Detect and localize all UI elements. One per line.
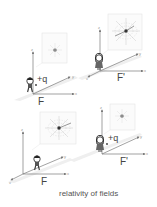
panel-bottom-left (8, 112, 76, 183)
charge-dot-icon (57, 126, 60, 129)
axis-letter-x: x (75, 92, 77, 96)
electric-field-lines-icon (115, 109, 129, 123)
electric-field-lines-icon (48, 43, 62, 57)
girl-observer-icon (95, 53, 103, 70)
axis-letter-v: v (86, 77, 88, 81)
ground-plane (70, 133, 142, 162)
boy-observer-icon (27, 78, 33, 93)
girl-observer-icon (96, 135, 104, 152)
y-axis (100, 54, 138, 71)
axis-letter-z: z (100, 106, 102, 110)
axis-letter-z: z (21, 128, 23, 132)
frame-label-top-left: F (38, 97, 44, 107)
diagram-canvas (0, 0, 157, 207)
axis-letter-y: y (72, 75, 74, 79)
charge-label-bottom-right: +q (108, 134, 118, 143)
axis-letter-x: x (67, 172, 69, 176)
panel-top-left (14, 33, 78, 101)
caption: relativity of fields (59, 190, 118, 198)
axis-letter-y: y (64, 155, 66, 159)
charge-point-icon (35, 84, 37, 86)
axis-letter-y: y (139, 52, 141, 56)
frame-label-bottom-left: F (41, 177, 47, 187)
relativity-diagram: +q F F' F +q F' z y x z y x v z y x v z … (0, 0, 157, 207)
axis-letter-x: x (146, 152, 148, 156)
axis-letter-x: x (144, 69, 146, 73)
axis-letter-v: v (9, 181, 11, 185)
charge-dot-icon (124, 29, 127, 32)
frame-label-top-right: F' (117, 73, 125, 83)
axis-letter-z: z (98, 26, 100, 30)
frame-label-bottom-right: F' (120, 157, 128, 167)
charge-label-top-left: +q (37, 75, 47, 84)
field-inset-box (42, 33, 67, 63)
axis-letter-y: y (140, 135, 142, 139)
axis-letter-z: z (31, 48, 33, 52)
charge-point-icon (106, 143, 108, 145)
panel-top-right (78, 14, 143, 80)
